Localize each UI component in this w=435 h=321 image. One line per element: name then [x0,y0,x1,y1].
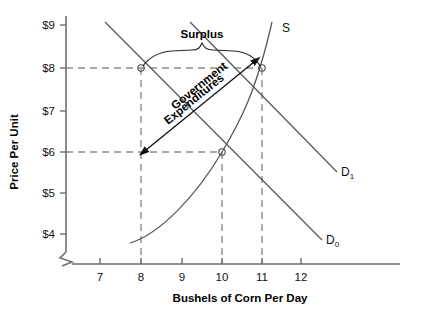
y-axis-title: Price Per Unit [8,114,20,190]
gov-exp-double-arrow-icon [146,62,254,150]
y-tick-labels: $9 $8 $7 $6 $5 $4 [42,19,55,240]
axes [60,16,400,266]
curves [105,22,337,243]
chart-canvas: $9 $8 $7 $6 $5 $4 7 8 9 10 11 12 Price P… [0,0,435,321]
government-expenditures-annotation: Government Expenditures [146,59,254,150]
surplus-brace-icon [143,43,260,66]
axis-break-icon [60,252,72,266]
guide-lines [66,68,262,264]
supply-curve-label: S [282,21,290,35]
x-tick-label-7: 7 [97,271,103,283]
y-tick-label-4: $4 [42,228,55,240]
surplus-label: Surplus [181,28,224,40]
y-tick-label-7: $7 [42,105,55,117]
demand-0-label: D0 [326,233,340,249]
y-tick-label-6: $6 [42,146,55,158]
x-axis-title: Bushels of Corn Per Day [173,292,308,304]
demand-1-label: D1 [341,165,355,181]
y-tick-label-9: $9 [42,19,55,31]
demand-0-curve [105,22,322,240]
surplus-annotation: Surplus [143,28,260,66]
x-tick-label-12: 12 [295,271,308,283]
supply-demand-chart: $9 $8 $7 $6 $5 $4 7 8 9 10 11 12 Price P… [0,0,435,321]
curve-labels: S D1 D0 [282,21,355,249]
x-tick-labels: 7 8 9 10 11 12 [97,271,308,283]
x-tick-label-10: 10 [216,271,229,283]
supply-curve [130,22,272,243]
x-tick-label-11: 11 [256,271,268,283]
x-tick-label-9: 9 [179,271,185,283]
y-tick-label-8: $8 [42,62,55,74]
x-tick-label-8: 8 [138,271,144,283]
y-tick-label-5: $5 [42,187,55,199]
